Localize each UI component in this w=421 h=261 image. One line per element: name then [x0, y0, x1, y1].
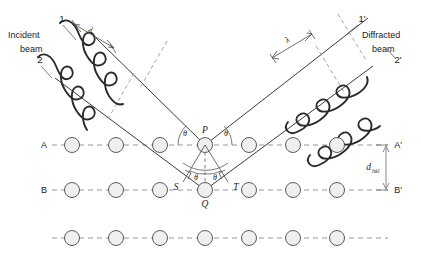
atom — [109, 231, 124, 246]
diffracted-beam-label-line2: beam — [372, 44, 395, 54]
atom — [65, 138, 80, 153]
plane-a-left-label: A — [41, 140, 47, 150]
diffracted-wave-1-path — [286, 77, 368, 133]
wavelength-right-label: λ — [282, 34, 291, 45]
plane-a-right-label: A' — [394, 140, 402, 150]
atom — [153, 231, 168, 246]
diffracted-beam-label-line1: Diffracted — [362, 30, 400, 40]
plane-b-right-label: B' — [394, 185, 402, 195]
atom — [153, 138, 168, 153]
incident-ray-1-line — [96, 38, 205, 145]
incident-wave-2-path — [38, 54, 95, 130]
d-spacing-label: d — [366, 162, 371, 172]
atom — [330, 231, 345, 246]
point-q-label: Q — [202, 199, 209, 209]
d-spacing-subscript: hkl — [372, 168, 380, 174]
atom — [153, 183, 168, 198]
atom-q — [198, 183, 213, 198]
wavelength-left-tick-end — [110, 44, 116, 53]
point-p-label: P — [201, 125, 208, 135]
incident-wave-2 — [38, 54, 95, 130]
atom — [242, 231, 257, 246]
atom — [242, 138, 257, 153]
diffracted-ray-1-leader — [347, 25, 358, 34]
interplanar-spacing-marker: d hkl — [366, 145, 389, 190]
theta-arc-lower-outer — [183, 163, 228, 170]
diffracted-ray-2-line — [205, 66, 373, 190]
atom — [330, 138, 345, 153]
incident-beam-annotation: 1 Incident beam 2 — [8, 13, 76, 78]
atom — [286, 231, 301, 246]
atom — [65, 183, 80, 198]
atom — [109, 138, 124, 153]
wavelength-right-line — [272, 34, 312, 58]
incident-wavefront-upper — [140, 41, 167, 88]
atom — [242, 183, 257, 198]
incident-ray-2-leader — [41, 66, 52, 78]
atom — [65, 231, 80, 246]
wavelength-marker-right: λ — [270, 30, 315, 63]
theta-label-lower-right: θ — [213, 173, 217, 182]
incident-wavefront-lower — [108, 73, 134, 119]
theta-label-lower-left: θ — [194, 173, 198, 182]
atom — [286, 183, 301, 198]
incident-ray-1-leader — [63, 25, 76, 40]
atom — [109, 183, 124, 198]
incident-rays-group — [55, 38, 205, 190]
diffracted-ray-2-label: 2' — [394, 54, 401, 65]
bragg-diffraction-figure: λ λ — [0, 0, 421, 261]
point-s-label: S — [174, 182, 179, 192]
theta-label-upper-left: θ — [183, 129, 187, 138]
incident-beam-label-line2: beam — [20, 44, 43, 54]
atom — [330, 183, 345, 198]
diffracted-wave-1 — [286, 77, 368, 133]
diffracted-ray-1-label: 1' — [358, 13, 365, 24]
theta-label-upper-right: θ — [224, 129, 228, 138]
plane-b-left-label: B — [41, 185, 47, 195]
point-t-label: T — [233, 182, 239, 192]
incident-ray-2-label: 2 — [37, 54, 42, 65]
diffracted-beam-annotation: 1' Diffracted beam 2' — [347, 13, 402, 65]
wavelength-right-arrow-start — [272, 51, 279, 59]
atom — [198, 231, 213, 246]
atom — [286, 138, 301, 153]
incident-ray-1-label: 1 — [59, 13, 64, 24]
incident-beam-label-line1: Incident — [8, 30, 40, 40]
diffracted-wavefront-lower — [316, 46, 344, 92]
